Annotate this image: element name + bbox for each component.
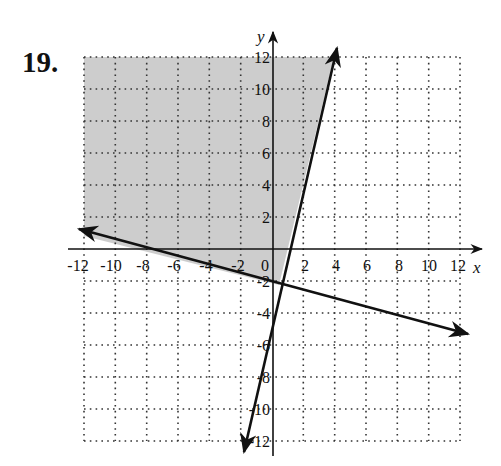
svg-text:4: 4 [262,177,270,194]
svg-text:2: 2 [262,209,270,226]
x-tick-labels: -12 -10 -8 -6 -4 -2 0 2 4 6 8 10 12 [67,257,466,274]
svg-text:-10: -10 [100,257,121,274]
svg-text:12: 12 [450,257,466,274]
svg-text:-4: -4 [199,257,212,274]
svg-text:4: 4 [332,257,340,274]
svg-text:-8: -8 [257,369,270,386]
svg-text:10: 10 [254,81,270,98]
svg-text:-10: -10 [249,401,270,418]
coordinate-plane: -12 -10 -8 -6 -4 -2 0 2 4 6 8 10 12 x 12… [0,0,501,466]
svg-text:10: 10 [421,257,437,274]
svg-text:-12: -12 [67,257,88,274]
svg-text:-6: -6 [257,337,270,354]
shaded-region [84,57,334,285]
svg-text:-4: -4 [257,305,270,322]
x-axis-label: x [472,258,481,277]
svg-text:8: 8 [395,257,403,274]
svg-text:-8: -8 [136,257,149,274]
svg-text:0: 0 [261,257,269,274]
svg-text:-2: -2 [257,273,270,290]
y-axis-label: y [255,27,265,46]
svg-text:8: 8 [262,113,270,130]
svg-text:2: 2 [301,257,309,274]
svg-text:12: 12 [254,49,270,66]
svg-text:-6: -6 [167,257,180,274]
svg-text:6: 6 [363,257,371,274]
svg-text:-12: -12 [249,433,270,450]
svg-text:-2: -2 [231,257,244,274]
svg-text:6: 6 [262,145,270,162]
